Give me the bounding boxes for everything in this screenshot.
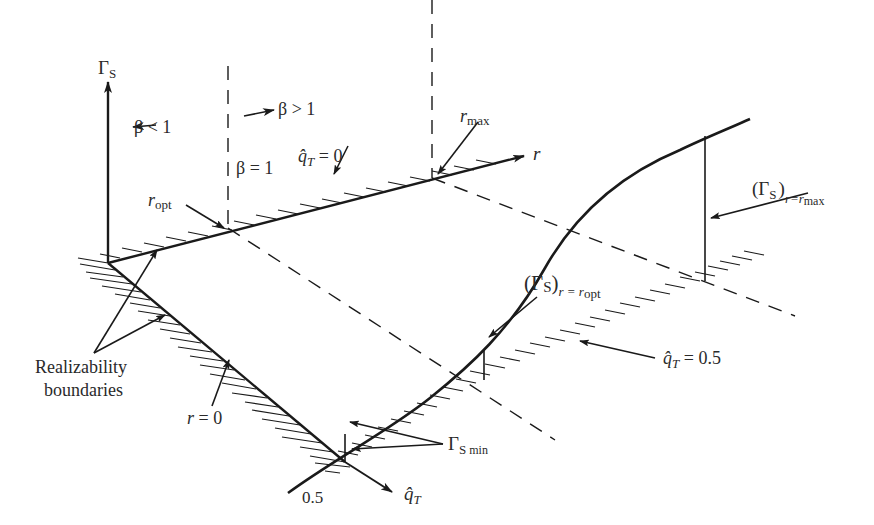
qT-zero-label: q̂T = 0	[298, 146, 342, 169]
r-axis-label: r	[533, 143, 541, 164]
axes	[108, 82, 705, 492]
gamma-min-label: ΓSmin	[448, 433, 488, 457]
q-axis-label: q̂T	[404, 483, 422, 507]
leader-arrows	[94, 110, 808, 449]
beta-greater-label: β > 1	[278, 99, 315, 119]
gamma-ropt-label: (ΓS)r = ropt	[524, 271, 601, 301]
realizability-label-line2: boundaries	[44, 380, 123, 400]
qT-half-label: q̂T = 0.5	[663, 348, 721, 371]
gamma-rmax-label: (ΓS)r=rmax	[752, 178, 824, 208]
gamma-surface-curve	[288, 119, 750, 493]
beta-less-label: β < 1	[134, 117, 171, 137]
rmax-floor-dashed-line	[432, 178, 795, 316]
q-half-line	[345, 281, 705, 462]
r-zero-label: r = 0	[187, 408, 222, 428]
ropt-label: ropt	[148, 190, 172, 212]
ropt-dashed-line	[228, 228, 555, 440]
gamma-axis-label: ΓS	[98, 57, 116, 81]
rmax-label: rmax	[460, 106, 490, 128]
q-axis-arrow	[345, 462, 392, 492]
half-tick-label: 0.5	[302, 488, 323, 507]
q-axis	[108, 263, 345, 462]
realizability-label-line1: Realizability	[35, 357, 127, 377]
beta-equal-label: β = 1	[236, 158, 273, 178]
surface-diagram: ΓS β < 1 β > 1 β = 1 rmax r q̂T = 0 ropt…	[0, 0, 874, 525]
dashed-guides	[228, 0, 795, 440]
